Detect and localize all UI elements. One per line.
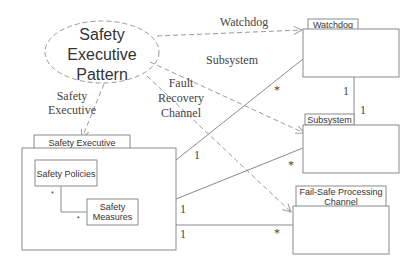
class-watchdog[interactable]: Watchdog (303, 19, 399, 77)
label-safety-executive-dependency-line2: Executive (48, 103, 96, 117)
dependency-watchdog (157, 30, 302, 36)
diagram-canvas: Safety Executive Pattern Watchdog Subsys… (0, 0, 419, 267)
safety-measures-label-line1: Safety (100, 202, 126, 212)
safety-measures-label-line2: Measures (93, 212, 133, 222)
class-safety-policies[interactable]: Safety Policies (35, 160, 97, 186)
mult-watchdog-subsystem-wd: 1 (343, 84, 349, 98)
label-subsystem-dependency: Subsystem (206, 53, 259, 67)
class-safety-measures[interactable]: Safety Measures (87, 199, 138, 225)
class-failsafe-channel[interactable]: Fail-Safe Processing Channel (293, 186, 389, 254)
mult-measures: * (77, 215, 80, 222)
mult-exec-failsafe-exec: 1 (180, 227, 186, 241)
mult-watchdog-subsystem-sub: 1 (360, 103, 366, 117)
label-safety-executive-dependency-line1: Safety (57, 89, 88, 103)
mult-exec-subsystem-exec: 1 (180, 202, 186, 216)
safety-executive-tab-label: Safety Executive (48, 138, 115, 148)
pattern-collaboration[interactable]: Safety Executive Pattern (45, 21, 159, 83)
mult-exec-failsafe-fs: * (274, 226, 280, 240)
pattern-label-line3: Pattern (76, 66, 128, 83)
class-safety-executive[interactable]: Safety Executive Safety Policies * * Saf… (22, 135, 176, 250)
mult-exec-watchdog-wd: * (274, 83, 280, 97)
class-subsystem[interactable]: Subsystem (303, 114, 399, 173)
failsafe-body (293, 206, 389, 254)
label-watchdog-dependency: Watchdog (220, 15, 268, 29)
label-fault-recovery-line3: Channel (161, 106, 202, 120)
mult-policies: * (51, 190, 54, 197)
pattern-label-line1: Safety (79, 26, 124, 43)
pattern-label-line2: Executive (67, 46, 136, 63)
safety-policies-label: Safety Policies (36, 169, 96, 179)
watchdog-body (303, 29, 399, 77)
mult-exec-subsystem-sub: * (288, 158, 294, 172)
label-fault-recovery-line1: Fault (169, 76, 194, 90)
label-fault-recovery-line2: Recovery (158, 91, 204, 105)
failsafe-tab-label-line1: Fail-Safe Processing (299, 187, 382, 197)
mult-exec-watchdog-exec: 1 (194, 148, 200, 162)
subsystem-body (303, 125, 399, 173)
subsystem-tab-label: Subsystem (307, 115, 352, 125)
